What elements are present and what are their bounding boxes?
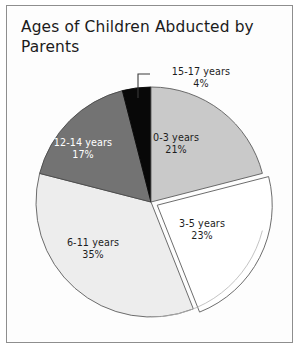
pie-label-15-17-years-name: 15-17 years (172, 66, 230, 77)
pie-label-6-11-years-name: 6-11 years (67, 237, 119, 248)
pie-label-3-5-years-name: 3-5 years (179, 218, 225, 229)
pie-label-12-14-years-percent: 17% (37, 149, 129, 161)
pie-label-3-5-years-percent: 23% (159, 230, 245, 242)
scanned-page: Ages of Children Abducted by Parents (0, 0, 300, 350)
pie-label-0-3-years-name: 0-3 years (153, 132, 199, 143)
pie-label-12-14-years-name: 12-14 years (54, 137, 112, 148)
pie-label-15-17-years: 15-17 years 4% (157, 66, 245, 89)
pie-label-15-17-years-percent: 4% (157, 78, 245, 90)
pie-chart-svg (7, 6, 294, 344)
chart-frame: Ages of Children Abducted by Parents (6, 5, 293, 343)
pie-label-0-3-years: 0-3 years 21% (133, 132, 219, 155)
pie-chart: 15-17 years 4% 0-3 years 21% 3-5 years 2… (7, 6, 294, 344)
pie-label-6-11-years-percent: 35% (47, 249, 139, 261)
pie-label-12-14-years: 12-14 years 17% (37, 137, 129, 160)
pie-label-3-5-years: 3-5 years 23% (159, 218, 245, 241)
pie-label-6-11-years: 6-11 years 35% (47, 237, 139, 260)
pie-label-0-3-years-percent: 21% (133, 144, 219, 156)
